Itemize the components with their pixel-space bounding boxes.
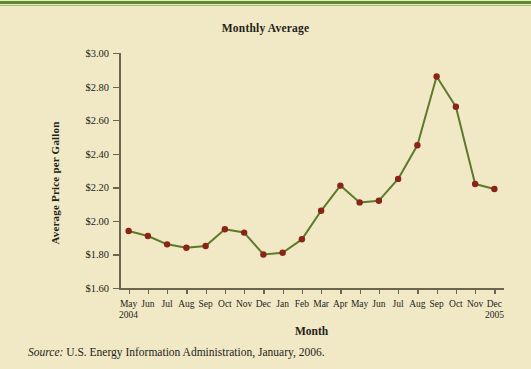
data-point xyxy=(260,251,266,257)
y-tick-label: $1.60 xyxy=(85,283,109,294)
x-tick-label: Apr xyxy=(333,299,348,309)
x-tick xyxy=(206,288,207,294)
x-tick xyxy=(494,288,495,294)
y-tick-label: $1.80 xyxy=(85,249,109,260)
data-point xyxy=(299,236,305,242)
x-tick xyxy=(244,288,245,294)
x-tick xyxy=(360,288,361,294)
x-tick xyxy=(456,288,457,294)
x-tick-label: Nov xyxy=(236,299,252,309)
y-tick-label: $3.00 xyxy=(85,48,109,59)
x-tick-label: Jan xyxy=(276,299,289,309)
series-line xyxy=(129,77,495,255)
x-tick-label: Aug xyxy=(178,299,194,309)
data-point xyxy=(241,229,247,235)
y-tick-label: $2.80 xyxy=(85,81,109,92)
price-line-series xyxy=(119,53,504,288)
x-tick xyxy=(148,288,149,294)
data-point xyxy=(183,245,189,251)
data-point xyxy=(164,241,170,247)
x-axis-year-label: 2004 xyxy=(119,310,138,320)
x-tick xyxy=(340,288,341,294)
data-point xyxy=(202,243,208,249)
source-note: Source: U.S. Energy Information Administ… xyxy=(28,346,325,358)
data-point xyxy=(433,73,439,79)
x-tick xyxy=(417,288,418,294)
y-tick-label: $2.00 xyxy=(85,215,109,226)
y-axis-title: Average Price per Gallon xyxy=(49,98,61,268)
data-point xyxy=(318,208,324,214)
x-tick-label: Dec xyxy=(487,299,502,309)
x-tick xyxy=(225,288,226,294)
x-tick xyxy=(475,288,476,294)
x-axis-year-label: 2005 xyxy=(485,310,504,320)
data-point xyxy=(491,186,497,192)
source-label: Source: xyxy=(28,346,63,358)
x-tick xyxy=(283,288,284,294)
x-tick xyxy=(379,288,380,294)
x-tick xyxy=(302,288,303,294)
y-tick-label: $2.60 xyxy=(85,115,109,126)
x-axis-line xyxy=(119,288,504,290)
x-tick xyxy=(398,288,399,294)
x-tick-label: Jul xyxy=(162,299,173,309)
x-tick-label: Jun xyxy=(141,299,154,309)
x-tick-label: Oct xyxy=(218,299,232,309)
data-point xyxy=(337,182,343,188)
x-tick-label: May xyxy=(120,299,137,309)
data-point xyxy=(414,142,420,148)
y-tick xyxy=(113,288,119,289)
top-rule xyxy=(0,0,531,8)
x-tick-label: Mar xyxy=(313,299,329,309)
x-tick xyxy=(263,288,264,294)
data-point xyxy=(279,250,285,256)
top-rule-thick xyxy=(0,1,531,4)
data-point xyxy=(453,104,459,110)
data-point xyxy=(472,181,478,187)
x-axis-title: Month xyxy=(119,325,504,337)
data-point xyxy=(395,176,401,182)
x-tick-label: Sep xyxy=(198,299,212,309)
data-point xyxy=(145,233,151,239)
x-tick-label: Sep xyxy=(429,299,443,309)
top-rule-thin xyxy=(0,5,531,6)
x-tick xyxy=(129,288,130,294)
data-point xyxy=(125,228,131,234)
x-tick-label: Feb xyxy=(295,299,309,309)
data-point xyxy=(376,198,382,204)
chart-title: Monthly Average xyxy=(0,22,531,34)
x-tick-label: Aug xyxy=(409,299,425,309)
x-tick-label: Jul xyxy=(393,299,404,309)
x-tick xyxy=(321,288,322,294)
x-tick-label: May xyxy=(351,299,368,309)
data-point xyxy=(356,199,362,205)
plot-area: $3.00$2.80$2.60$2.40$2.20$2.00$1.80$1.60… xyxy=(119,53,504,288)
x-tick-label: Nov xyxy=(467,299,483,309)
x-tick xyxy=(186,288,187,294)
source-text: U.S. Energy Information Administration, … xyxy=(66,346,324,358)
y-tick-label: $2.40 xyxy=(85,148,109,159)
figure-panel: Monthly Average Average Price per Gallon… xyxy=(0,0,531,369)
y-tick-label: $2.20 xyxy=(85,182,109,193)
data-point xyxy=(222,226,228,232)
x-tick-label: Oct xyxy=(449,299,463,309)
x-tick-label: Jun xyxy=(372,299,385,309)
x-tick xyxy=(437,288,438,294)
x-tick xyxy=(167,288,168,294)
x-tick-label: Dec xyxy=(256,299,271,309)
